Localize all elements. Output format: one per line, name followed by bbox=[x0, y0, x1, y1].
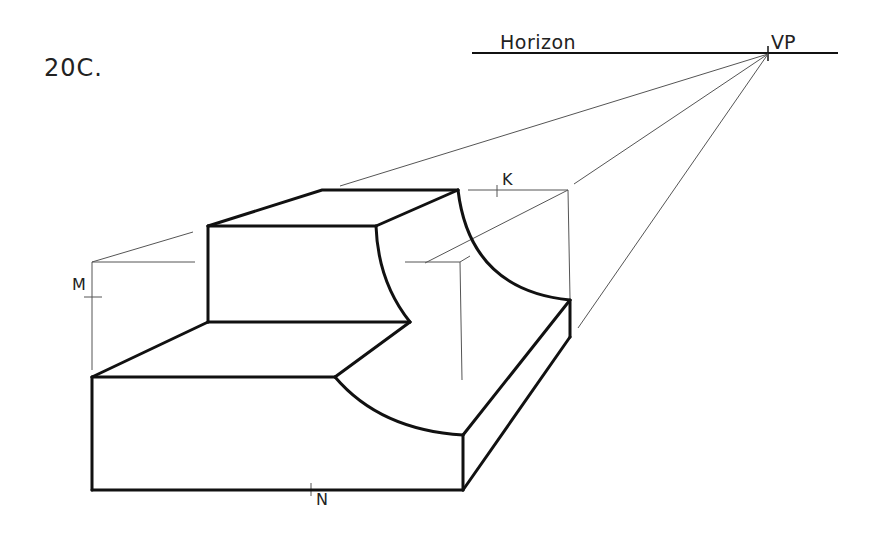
back-quarter-round-curve bbox=[458, 190, 570, 300]
stepped-block bbox=[92, 190, 570, 490]
k-vertical bbox=[568, 190, 570, 298]
n-label: N bbox=[316, 492, 328, 508]
perspective-drawing bbox=[0, 0, 883, 548]
k-diagonal bbox=[425, 190, 568, 263]
figure-label: 20C. bbox=[44, 56, 103, 80]
upper-front-curve bbox=[376, 226, 410, 322]
horizon-label: Horizon bbox=[500, 33, 576, 52]
lower-step-edge bbox=[335, 322, 410, 377]
construction-lines bbox=[84, 185, 570, 496]
m-label: M bbox=[72, 277, 86, 293]
m-diagonal bbox=[92, 232, 193, 262]
vanishing-point-label: VP bbox=[771, 33, 795, 52]
lower-top-left-edge bbox=[92, 322, 208, 377]
upper-top-right-edge bbox=[376, 190, 458, 226]
lower-front-curve bbox=[335, 377, 463, 435]
k-label: K bbox=[502, 172, 513, 188]
